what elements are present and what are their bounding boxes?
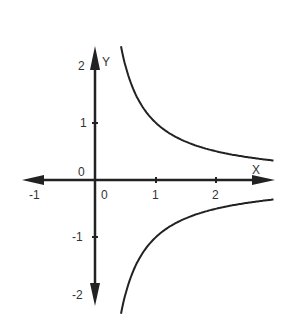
y-axis-up-arrow (90, 46, 100, 70)
y-tick-1: 1 (80, 116, 87, 130)
curve-negative-branch (121, 200, 274, 314)
x-tick-neg1: -1 (29, 188, 40, 202)
y-tick-neg2: -2 (72, 288, 83, 302)
y-tick-neg1: -1 (72, 230, 83, 244)
y-tick-0: 0 (78, 165, 85, 179)
x-tick-2: 2 (212, 188, 219, 202)
x-tick-0: 0 (101, 188, 108, 202)
curve-positive-branch (121, 46, 274, 160)
chart: -1 0 1 2 2 1 0 -1 -2 Y X (0, 0, 292, 319)
x-tick-1: 1 (152, 188, 159, 202)
y-axis-label: Y (102, 55, 110, 69)
x-axis-label: X (252, 163, 260, 177)
y-tick-2: 2 (78, 59, 85, 73)
y-axis-down-arrow (90, 283, 100, 306)
x-axis-left-arrow (22, 175, 44, 185)
